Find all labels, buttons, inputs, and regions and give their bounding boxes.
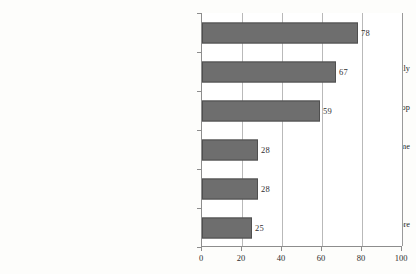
bar-chart: Driving less around town or shortening w… bbox=[0, 0, 416, 274]
x-axis-tick bbox=[361, 247, 362, 251]
bar-row: 67 bbox=[202, 52, 402, 91]
x-axis-tick bbox=[321, 247, 322, 251]
bar-value-label: 59 bbox=[323, 106, 332, 115]
bar-row: 28 bbox=[202, 169, 402, 208]
x-axis-tick-label: 40 bbox=[277, 253, 286, 263]
bar bbox=[202, 139, 258, 160]
x-axis-tick-label: 20 bbox=[237, 253, 246, 263]
bar bbox=[202, 217, 252, 238]
bar-value-label: 28 bbox=[261, 145, 270, 154]
bar bbox=[202, 61, 336, 82]
gridline bbox=[402, 13, 403, 246]
x-axis-tick bbox=[241, 247, 242, 251]
x-axis-tick bbox=[401, 247, 402, 251]
bar bbox=[202, 178, 258, 199]
plot-area: 78 67 59 28 28 25 bbox=[201, 13, 402, 247]
bar-row: 59 bbox=[202, 91, 402, 130]
bar-row: 28 bbox=[202, 130, 402, 169]
bar-row: 78 bbox=[202, 13, 402, 52]
x-axis-tick-label: 60 bbox=[317, 253, 326, 263]
bar-value-label: 28 bbox=[261, 184, 270, 193]
bar bbox=[202, 100, 320, 121]
bar-row: 25 bbox=[202, 208, 402, 247]
x-axis-tick-label: 100 bbox=[395, 253, 408, 263]
x-axis-tick-label: 0 bbox=[199, 253, 203, 263]
x-axis-tick-label: 80 bbox=[357, 253, 366, 263]
bar-value-label: 67 bbox=[339, 67, 348, 76]
bar-value-label: 78 bbox=[361, 28, 370, 37]
x-axis-tick bbox=[201, 247, 202, 251]
bar bbox=[202, 22, 358, 43]
x-axis-tick bbox=[281, 247, 282, 251]
bar-value-label: 25 bbox=[255, 223, 264, 232]
